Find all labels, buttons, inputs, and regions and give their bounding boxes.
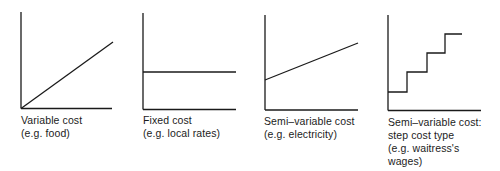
fixed-cost-chart — [143, 13, 236, 110]
step-cost-chart — [388, 15, 481, 111]
variable-cost-line — [21, 42, 113, 109]
step-cost-line — [388, 34, 462, 92]
semi-variable-cost-line — [265, 43, 358, 80]
caption-line: wages) — [388, 155, 482, 168]
fixed-cost-caption: Fixed cost (e.g. local rates) — [143, 114, 220, 140]
caption-line: step cost type — [388, 129, 482, 142]
caption-line: Fixed cost — [143, 114, 220, 127]
caption-line: (e.g. electricity) — [264, 128, 355, 141]
caption-line: Semi–variable cost — [264, 115, 355, 128]
step-cost-caption: Semi–variable cost: step cost type (e.g.… — [388, 116, 482, 168]
caption-line: (e.g. food) — [21, 127, 82, 140]
caption-line: Variable cost — [21, 114, 82, 127]
variable-cost-caption: Variable cost (e.g. food) — [21, 114, 82, 140]
semi-variable-cost-caption: Semi–variable cost (e.g. electricity) — [264, 115, 355, 141]
caption-line: (e.g. local rates) — [143, 127, 220, 140]
variable-cost-chart — [21, 12, 113, 109]
semi-variable-cost-chart — [265, 15, 358, 110]
caption-line: (e.g. waitress's — [388, 142, 482, 155]
caption-line: Semi–variable cost: — [388, 116, 482, 129]
